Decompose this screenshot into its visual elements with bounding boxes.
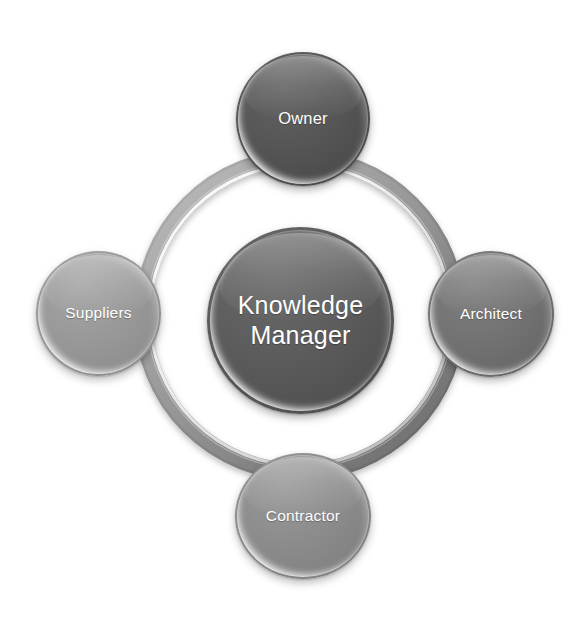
node-owner[interactable]: Owner xyxy=(236,52,370,186)
node-knowledge-manager-label: Knowledge Manager xyxy=(232,291,370,350)
node-contractor[interactable]: Contractor xyxy=(235,453,371,579)
node-knowledge-manager-label-line2: Manager xyxy=(250,321,350,349)
node-suppliers[interactable]: Suppliers xyxy=(36,251,161,376)
node-architect-label: Architect xyxy=(454,305,528,323)
node-suppliers-label: Suppliers xyxy=(59,304,137,322)
node-knowledge-manager[interactable]: Knowledge Manager xyxy=(207,227,394,414)
node-knowledge-manager-label-line1: Knowledge xyxy=(238,291,364,319)
diagram-canvas: Owner Architect Contractor Suppliers Kno… xyxy=(0,0,587,619)
node-owner-label: Owner xyxy=(272,109,334,128)
node-contractor-label: Contractor xyxy=(260,507,346,525)
node-architect[interactable]: Architect xyxy=(428,251,554,377)
